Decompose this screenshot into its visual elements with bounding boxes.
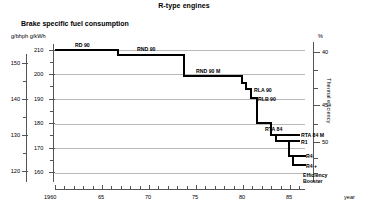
percent-tick-label: 45 — [322, 102, 328, 108]
kwh-tick-label: 190 — [34, 96, 43, 102]
x-tick — [196, 185, 197, 190]
kwh-tick-label: 180 — [34, 120, 43, 126]
series-label-r1: R1 — [301, 139, 308, 145]
bhph-tick-label: 120 — [0, 168, 20, 174]
x-tick-label: 1960 — [44, 194, 56, 200]
x-minor-tick — [168, 186, 169, 189]
gridline — [55, 148, 305, 149]
kwh-tick — [49, 74, 55, 75]
bhph-tick — [22, 99, 28, 100]
right-axis-title: Thermal efficiency — [326, 78, 332, 123]
percent-axis-line — [313, 42, 314, 182]
plot-area — [55, 50, 305, 173]
kwh-tick-label: 170 — [34, 145, 43, 151]
x-axis-unit: year — [344, 194, 355, 200]
x-minor-tick — [83, 186, 84, 189]
step-riser — [183, 54, 185, 77]
percent-tick-label: 50 — [322, 139, 328, 145]
x-minor-tick — [111, 186, 112, 189]
x-minor-tick — [234, 186, 235, 189]
series-label-r4: R4 — [306, 153, 313, 159]
kwh-tick — [49, 99, 55, 100]
step-segment-rnd90m — [183, 75, 243, 77]
percent-minor-tick — [314, 88, 318, 89]
x-tick — [149, 185, 150, 190]
percent-minor-tick — [314, 70, 318, 71]
step-segment-rd90 — [55, 49, 119, 51]
bhph-tick — [22, 63, 28, 64]
series-label-rnd90: RND 90 — [137, 46, 155, 52]
step-segment-r4plus — [292, 164, 306, 166]
x-minor-tick — [177, 186, 178, 189]
page-title: R-type engines — [0, 2, 368, 9]
x-minor-tick — [121, 186, 122, 189]
kwh-tick — [49, 172, 55, 173]
kwh-tick-label: 200 — [34, 71, 43, 77]
x-minor-tick — [299, 186, 300, 189]
bhph-tick-label: 140 — [0, 96, 20, 102]
kwh-axis-line — [53, 44, 54, 182]
x-minor-tick — [74, 186, 75, 189]
bhph-tick — [22, 135, 28, 136]
gridline — [55, 173, 305, 174]
step-segment-r4 — [288, 155, 306, 157]
kwh-minor-tick — [50, 111, 54, 112]
x-minor-tick — [252, 186, 253, 189]
kwh-tick-label: 160 — [34, 169, 43, 175]
x-minor-tick — [158, 186, 159, 189]
kwh-minor-tick — [50, 160, 54, 161]
kwh-minor-tick — [50, 62, 54, 63]
kwh-minor-tick — [50, 135, 54, 136]
series-label-rla90: RLA 90 — [254, 87, 272, 93]
step-segment-rnd90 — [117, 54, 185, 56]
x-tick-label: 70 — [145, 194, 151, 200]
series-label-rta84: RTA 84 — [265, 126, 282, 132]
x-minor-tick — [281, 186, 282, 189]
chart-subtitle: Brake specific fuel consumption — [21, 20, 129, 27]
x-minor-tick — [64, 186, 65, 189]
x-minor-tick — [205, 186, 206, 189]
bhph-minor-tick — [23, 81, 27, 82]
series-label-rd90: RD 90 — [75, 42, 90, 48]
kwh-tick — [49, 123, 55, 124]
percent-minor-tick — [314, 158, 318, 159]
bhph-tick-label: 130 — [0, 132, 20, 138]
x-minor-tick — [262, 186, 263, 189]
series-label-rnd90m: RND 90 M — [196, 68, 220, 74]
percent-minor-tick — [314, 124, 318, 125]
series-label-rlb90: RLB 90 — [258, 96, 276, 102]
annotation-efficiency-booster-line2: Booster — [303, 178, 323, 184]
bhph-minor-tick — [23, 117, 27, 118]
x-minor-tick — [140, 186, 141, 189]
x-minor-tick — [271, 186, 272, 189]
bhph-tick-label: 150 — [0, 60, 20, 66]
bhph-minor-tick — [23, 153, 27, 154]
percent-tick — [314, 105, 320, 106]
x-axis-line — [55, 189, 305, 190]
percent-tick-label: 40 — [322, 49, 328, 55]
right-axis-unit: % — [318, 33, 323, 39]
kwh-tick-label: 210 — [34, 47, 43, 53]
x-minor-tick — [215, 186, 216, 189]
x-tick — [102, 185, 103, 190]
x-minor-tick — [224, 186, 225, 189]
x-minor-tick — [93, 186, 94, 189]
bhph-tick — [22, 171, 28, 172]
percent-tick — [314, 142, 320, 143]
left-axis-units: g/bhph g/kWh — [11, 33, 46, 39]
chart-page: R-type engines Brake specific fuel consu… — [0, 0, 368, 212]
x-tick — [243, 185, 244, 190]
x-minor-tick — [130, 186, 131, 189]
kwh-tick — [49, 148, 55, 149]
x-tick — [290, 185, 291, 190]
x-minor-tick — [187, 186, 188, 189]
series-label-rta84m: RTA 84 M — [301, 132, 324, 138]
gridline — [55, 74, 305, 75]
x-tick-label: 75 — [192, 194, 198, 200]
series-label-r4plus: R4 + — [306, 163, 317, 169]
bhph-axis-line — [26, 54, 27, 182]
x-tick-label: 80 — [239, 194, 245, 200]
kwh-minor-tick — [50, 86, 54, 87]
x-tick-label: 85 — [286, 194, 292, 200]
percent-tick — [314, 52, 320, 53]
